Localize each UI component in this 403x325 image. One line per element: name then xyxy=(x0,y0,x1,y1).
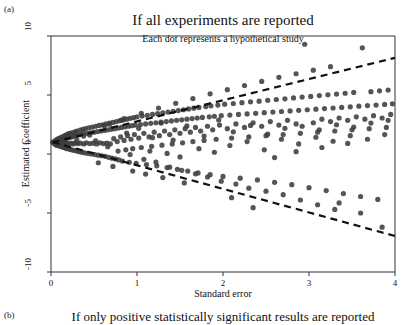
x-axis-title: Standard error xyxy=(51,288,395,299)
next-panel-title: If only positive statistically significa… xyxy=(51,309,395,325)
x-tick-label: 0 xyxy=(40,278,62,288)
x-tick-label: 2 xyxy=(212,278,234,288)
y-tick-label: 10 xyxy=(23,22,33,48)
x-tick-label: 4 xyxy=(384,278,403,288)
y-tick-label: 0 xyxy=(23,140,33,166)
x-tick-label: 3 xyxy=(298,278,320,288)
scatter-point-group xyxy=(50,42,395,230)
x-tick-label: 1 xyxy=(126,278,148,288)
y-tick-label: -10 xyxy=(23,258,33,284)
y-tick-label: 5 xyxy=(23,81,33,107)
reference-line-group xyxy=(53,58,395,236)
panel-b-label: (b) xyxy=(4,310,15,320)
y-tick-label: -5 xyxy=(23,199,33,225)
